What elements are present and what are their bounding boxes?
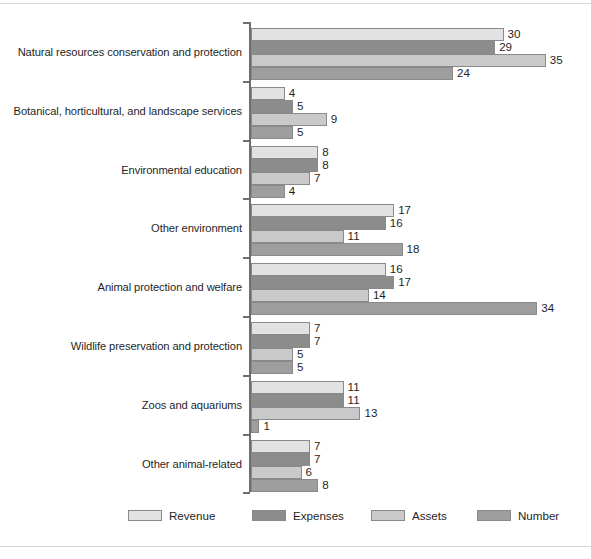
axis-tick: [243, 22, 250, 24]
bar-group: Other environment17161118: [0, 204, 591, 256]
bar-value-label: 5: [297, 360, 303, 374]
bar-revenue[interactable]: [251, 322, 310, 335]
bar-row: 8: [251, 159, 358, 172]
bar-row: 4: [251, 87, 325, 100]
bar-revenue[interactable]: [251, 28, 504, 41]
bar-value-label: 4: [289, 184, 295, 198]
bar-row: 7: [251, 172, 350, 185]
bar-row: 4: [251, 185, 325, 198]
bar-value-label: 7: [314, 321, 320, 335]
bar-expenses[interactable]: [251, 100, 293, 113]
bar-assets[interactable]: [251, 348, 293, 361]
category-label: Natural resources conservation and prote…: [2, 46, 242, 59]
plot-area: Natural resources conservation and prote…: [0, 0, 591, 502]
bar-number[interactable]: [251, 302, 537, 315]
bar-assets[interactable]: [251, 466, 302, 479]
bar-value-label: 29: [499, 40, 512, 54]
bar-value-label: 9: [331, 112, 337, 126]
bar-group: Other animal-related7768: [0, 440, 591, 492]
bar-value-label: 4: [289, 86, 295, 100]
category-label: Environmental education: [2, 164, 242, 177]
chart-figure: Natural resources conservation and prote…: [0, 0, 591, 559]
legend-label: Expenses: [293, 509, 344, 522]
bar-row: 13: [251, 407, 400, 420]
bar-number[interactable]: [251, 185, 285, 198]
bar-group: Botanical, horticultural, and landscape …: [0, 87, 591, 139]
axis-tick: [243, 434, 250, 436]
bar-number[interactable]: [251, 243, 403, 256]
bar-expenses[interactable]: [251, 453, 310, 466]
bar-value-label: 17: [398, 203, 411, 217]
bar-revenue[interactable]: [251, 263, 386, 276]
bar-row: 8: [251, 479, 358, 492]
category-label: Wildlife preservation and protection: [2, 340, 242, 353]
bar-row: 29: [251, 41, 535, 54]
category-label: Botanical, horticultural, and landscape …: [2, 105, 242, 118]
legend-item-revenue[interactable]: Revenue: [128, 505, 215, 525]
bar-row: 17: [251, 204, 434, 217]
bar-revenue[interactable]: [251, 381, 344, 394]
bar-expenses[interactable]: [251, 41, 495, 54]
bar-value-label: 13: [364, 406, 377, 420]
bar-value-label: 18: [407, 242, 420, 256]
bar-number[interactable]: [251, 361, 293, 374]
bar-row: 5: [251, 348, 333, 361]
bar-group: Wildlife preservation and protection7755: [0, 322, 591, 374]
axis-tick: [243, 492, 250, 494]
legend-item-assets[interactable]: Assets: [371, 505, 447, 525]
legend-swatch-icon: [371, 510, 405, 521]
bar-assets[interactable]: [251, 172, 310, 185]
bar-row: 9: [251, 113, 367, 126]
category-label: Other animal-related: [2, 458, 242, 471]
bar-value-label: 17: [398, 275, 411, 289]
category-label: Animal protection and welfare: [2, 281, 242, 294]
bar-row: 8: [251, 146, 358, 159]
bar-revenue[interactable]: [251, 204, 394, 217]
bar-value-label: 7: [314, 334, 320, 348]
bar-row: 17: [251, 276, 434, 289]
bar-assets[interactable]: [251, 113, 327, 126]
bar-revenue[interactable]: [251, 440, 310, 453]
legend-swatch-icon: [477, 510, 511, 521]
bar-expenses[interactable]: [251, 394, 344, 407]
bar-number[interactable]: [251, 67, 453, 80]
axis-tick: [243, 257, 250, 259]
bar-assets[interactable]: [251, 54, 546, 67]
category-label: Zoos and aquariums: [2, 399, 242, 412]
legend-item-number[interactable]: Number: [477, 505, 559, 525]
axis-tick: [243, 375, 250, 377]
bar-assets[interactable]: [251, 230, 344, 243]
bar-value-label: 34: [541, 301, 554, 315]
bar-value-label: 16: [390, 262, 403, 276]
legend-swatch-icon: [128, 510, 162, 521]
legend-item-expenses[interactable]: Expenses: [252, 505, 344, 525]
bar-row: 35: [251, 54, 586, 67]
legend-swatch-icon: [252, 510, 286, 521]
bar-expenses[interactable]: [251, 217, 386, 230]
bar-value-label: 11: [348, 380, 360, 394]
bar-assets[interactable]: [251, 289, 369, 302]
bar-row: 18: [251, 243, 443, 256]
bar-row: 5: [251, 361, 333, 374]
chart-legend: RevenueExpensesAssetsNumber: [0, 505, 591, 527]
bar-revenue[interactable]: [251, 146, 318, 159]
bar-value-label: 35: [550, 53, 563, 67]
bar-value-label: 16: [390, 216, 403, 230]
axis-tick: [243, 198, 250, 200]
bar-value-label: 8: [322, 478, 328, 492]
bar-number[interactable]: [251, 420, 259, 433]
bar-revenue[interactable]: [251, 87, 285, 100]
bar-row: 24: [251, 67, 493, 80]
axis-tick: [243, 81, 250, 83]
bar-row: 7: [251, 322, 350, 335]
bar-number[interactable]: [251, 479, 318, 492]
bar-group: Animal protection and welfare16171434: [0, 263, 591, 315]
bar-row: 16: [251, 217, 426, 230]
bar-number[interactable]: [251, 126, 293, 139]
category-label: Other environment: [2, 222, 242, 235]
bar-expenses[interactable]: [251, 159, 318, 172]
bar-group: Natural resources conservation and prote…: [0, 28, 591, 80]
bar-value-label: 7: [314, 452, 320, 466]
bar-value-label: 8: [322, 158, 328, 172]
legend-label: Revenue: [169, 509, 215, 522]
